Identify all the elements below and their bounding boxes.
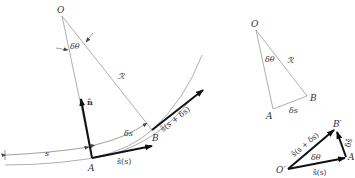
path-length-label: s [45, 149, 49, 158]
left-figure: O δθ ℛ n̂ δs B A s ŝ(s) ŝ(s + δs) [5, 5, 203, 173]
tangent-vector-b [152, 90, 203, 130]
tr-angle-label: δθ [265, 55, 275, 64]
bottom-right-vector-triangle: O′ B′ A δθ ŝ(s) ŝ(s + δs) δŝ [276, 119, 355, 177]
point-a-label: A [87, 163, 95, 173]
tr-arc-label: δs [289, 106, 298, 115]
tr-point-b-label: B [309, 93, 317, 103]
tr-origin-label: O [251, 19, 259, 29]
angle-arrow-right [86, 33, 93, 42]
tr-radius-label: ℛ [287, 56, 294, 65]
tangent-b-label: ŝ(s + δs) [159, 105, 192, 134]
curvature-diagram: O δθ ℛ n̂ δs B A s ŝ(s) ŝ(s + δs) O δθ ℛ… [0, 0, 355, 178]
br-point-a-label: A [347, 152, 355, 162]
point-b-label: B [151, 133, 159, 143]
top-right-triangle: O δθ ℛ B δs A [251, 19, 317, 121]
radius-line-ob [62, 16, 152, 130]
br-point-b-label: B′ [332, 119, 342, 129]
radius-label: ℛ [118, 72, 125, 81]
origin-label: O [57, 5, 65, 15]
arc-length-label: δs [124, 129, 133, 138]
br-vector-a-label: ŝ(s) [313, 168, 327, 177]
br-angle-label: δθ [311, 153, 321, 162]
angle-label: δθ [70, 42, 80, 51]
ds-dimension-line [95, 123, 147, 145]
normal-vector [81, 99, 92, 158]
br-difference-label: δŝ [343, 138, 354, 149]
br-origin-label: O′ [276, 165, 285, 175]
triangle-outline [256, 30, 307, 109]
tangent-a-label: ŝ(s) [117, 157, 131, 166]
angle-arrow-left [56, 48, 68, 50]
tr-point-a-label: A [265, 111, 273, 121]
normal-vector-label: n̂ [87, 97, 93, 107]
